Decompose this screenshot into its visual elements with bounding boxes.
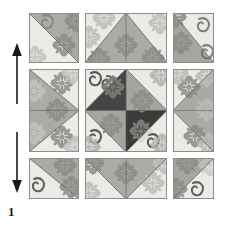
quilt-grid-svg <box>29 13 214 199</box>
down-arrow <box>12 132 22 193</box>
block-top-left <box>29 13 88 69</box>
block-top-center <box>77 13 172 71</box>
figure-number: 1 <box>8 205 15 219</box>
quilt-grid <box>29 13 214 199</box>
figure-canvas: 1 <box>0 0 225 228</box>
arrows-svg <box>6 0 28 228</box>
arrow-column <box>6 0 28 228</box>
up-arrow <box>12 43 22 104</box>
block-middle-left <box>29 61 87 159</box>
block-bottom-left <box>29 153 83 199</box>
block-bottom-center <box>77 151 176 199</box>
block-middle-right <box>165 61 214 156</box>
block-center <box>77 63 174 159</box>
block-bottom-right <box>164 151 214 199</box>
block-top-right <box>163 13 214 63</box>
